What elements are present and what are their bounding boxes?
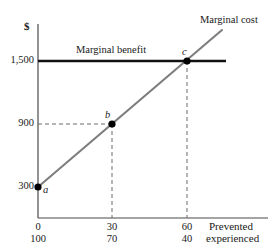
chart-plot-area [0, 0, 273, 250]
data-point-c [183, 57, 190, 64]
series-label-marginal-benefit: Marginal benefit [76, 45, 146, 56]
x-axis-title-prevented: Prevented [209, 221, 253, 232]
x-tick-label-experienced-70: 70 [97, 234, 127, 245]
y-tick-label-300: 300 [0, 181, 34, 192]
x-tick-label-prevented-0: 0 [23, 222, 53, 233]
y-axis-title: $ [24, 21, 30, 32]
x-tick-label-prevented-30: 30 [97, 222, 127, 233]
x-tick-label-prevented-60: 60 [172, 222, 202, 233]
y-tick-label-1500: 1,500 [0, 55, 34, 66]
x-tick-label-experienced-40: 40 [172, 234, 202, 245]
point-label-c: c [182, 47, 187, 58]
series-label-marginal-cost: Marginal cost [200, 15, 258, 26]
data-point-a [34, 183, 41, 190]
data-point-b [108, 120, 115, 127]
x-axis-title-experienced: experienced [206, 233, 259, 244]
chart-figure: $ 1,500 900 300 Marginal cost Marginal b… [0, 0, 273, 250]
y-tick-label-900: 900 [0, 118, 34, 129]
x-tick-label-experienced-100: 100 [23, 234, 53, 245]
point-label-a: a [43, 185, 48, 196]
point-label-b: b [105, 110, 110, 121]
